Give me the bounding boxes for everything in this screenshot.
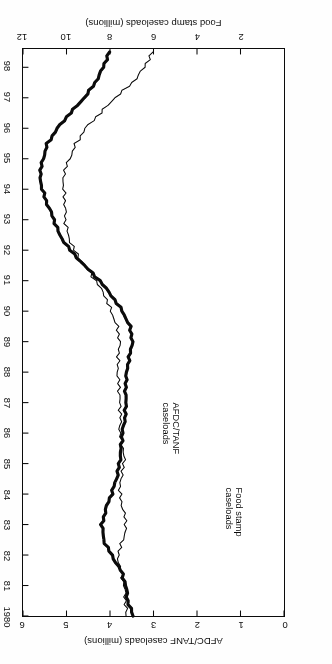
year-ticklabel: 93 (3, 214, 14, 225)
year-ticklabel: 85 (3, 459, 14, 470)
year-ticklabel: 95 (3, 153, 14, 164)
year-ticklabel: 94 (3, 183, 14, 194)
bottom-axis-ticklabel: 5 (63, 620, 68, 631)
year-ticklabel: 87 (3, 398, 14, 409)
year-ticklabel: 86 (3, 428, 14, 439)
chart-figure: Food stamp caseloads AFDC/TANF caseloads… (0, 0, 332, 664)
bottom-axis-ticklabel: 4 (107, 620, 112, 631)
bottom-axis-ticklabel: 2 (195, 620, 200, 631)
year-ticklabel: 92 (3, 245, 14, 256)
year-ticklabel: 91 (3, 275, 14, 286)
top-axis-ticklabel: 10 (61, 32, 72, 43)
bottom-axis-ticklabel: 1 (239, 620, 244, 631)
year-ticklabel: 82 (3, 551, 14, 562)
year-ticklabel: 1980 (3, 606, 14, 627)
annotation-afdc-tanf: AFDC/TANF caseloads (161, 403, 182, 473)
bottom-axis-ticklabel: 6 (19, 620, 24, 631)
annotation-food-stamp: Food stamp caseloads (224, 488, 245, 552)
plot-area: Food stamp caseloads AFDC/TANF caseloads (22, 48, 285, 617)
top-axis-ticklabel: 4 (195, 32, 200, 43)
bottom-axis-title: AFDC/TANF caseloads (millions) (84, 636, 223, 647)
year-ticklabel: 83 (3, 520, 14, 531)
year-ticklabel: 81 (3, 581, 14, 592)
year-ticklabel: 98 (3, 61, 14, 72)
data-curves (23, 49, 284, 616)
year-ticklabel: 90 (3, 306, 14, 317)
year-ticklabel: 84 (3, 489, 14, 500)
year-ticklabel: 89 (3, 336, 14, 347)
year-ticklabel: 88 (3, 367, 14, 378)
tick-marks (23, 49, 284, 616)
top-axis-ticklabel: 2 (239, 32, 244, 43)
year-ticklabel: 97 (3, 92, 14, 103)
top-axis-ticklabel: 12 (17, 32, 28, 43)
top-axis-ticklabel: 8 (107, 32, 112, 43)
bottom-axis-ticklabel: 0 (282, 620, 287, 631)
bottom-axis-ticklabel: 3 (151, 620, 156, 631)
year-ticklabel: 96 (3, 122, 14, 133)
top-axis-title: Food stamp caseloads (millions) (85, 18, 221, 29)
series-line-afdc-tanf (63, 52, 153, 616)
top-axis-ticklabel: 6 (151, 32, 156, 43)
